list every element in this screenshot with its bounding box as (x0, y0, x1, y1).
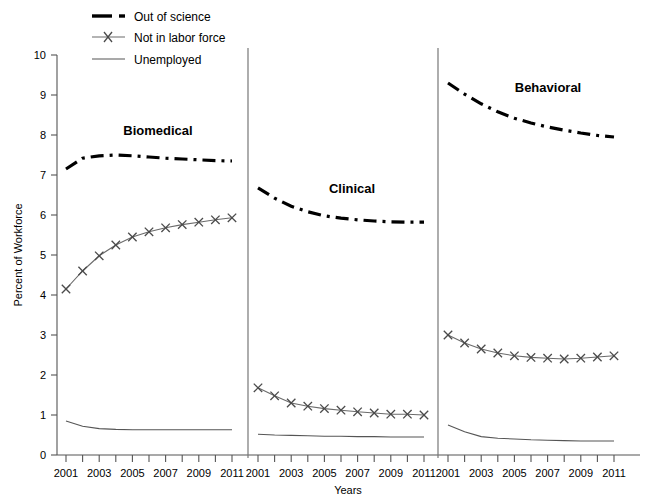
panel-title-biomedical: Biomedical (123, 123, 192, 138)
y-tick-label: 4 (40, 289, 46, 301)
y-tick-label: 5 (40, 249, 46, 261)
x-tick-label: 2009 (187, 467, 211, 479)
x-tick-label: 2001 (246, 467, 270, 479)
x-tick-label: 2007 (345, 467, 369, 479)
x-tick-label: 2005 (120, 467, 144, 479)
x-tick-label: 2005 (502, 467, 526, 479)
legend-label-not-in-labor-force: Not in labor force (134, 31, 226, 45)
x-tick-label: 2005 (312, 467, 336, 479)
legend-label-out-of-science: Out of science (134, 10, 211, 24)
x-tick-label: 2001 (436, 467, 460, 479)
x-tick-label: 2003 (279, 467, 303, 479)
series-line-biomedical-unemployed (66, 421, 232, 430)
panel-behavioral (444, 83, 618, 441)
series-line-behavioral-unemployed (448, 425, 614, 441)
y-tick-label: 7 (40, 169, 46, 181)
x-tick-label: 2011 (220, 467, 244, 479)
y-tick-label: 1 (40, 409, 46, 421)
x-axis-title: Years (334, 484, 362, 496)
panel-biomedical (62, 155, 236, 430)
series-markers-behavioral (444, 331, 618, 363)
x-tick-label: 2009 (569, 467, 593, 479)
series-line-behavioral-not-in-labor-force (448, 335, 614, 359)
x-axis: 2001200320052007200920112001200320052007… (54, 455, 640, 496)
y-tick-label: 6 (40, 209, 46, 221)
x-tick-label: 2007 (153, 467, 177, 479)
x-tick-label: 2001 (54, 467, 78, 479)
x-tick-label: 2003 (87, 467, 111, 479)
chart-figure: Out of science Not in labor force Unempl… (0, 0, 647, 504)
series-line-clinical-unemployed (258, 434, 424, 437)
y-tick-label: 3 (40, 329, 46, 341)
x-tick-label: 2011 (412, 467, 436, 479)
y-tick-label: 2 (40, 369, 46, 381)
chart-legend: Out of science Not in labor force Unempl… (92, 10, 226, 67)
x-tick-label: 2003 (469, 467, 493, 479)
x-tick-label: 2009 (379, 467, 403, 479)
multi-panel-line-chart: Out of science Not in labor force Unempl… (0, 0, 647, 504)
panel-title-clinical: Clinical (329, 181, 375, 196)
y-axis-title: Percent of Workforce (12, 203, 24, 306)
series-line-biomedical-out-of-science (66, 155, 232, 169)
legend-label-unemployed: Unemployed (134, 53, 201, 67)
panel-title-behavioral: Behavioral (515, 80, 581, 95)
y-tick-label: 10 (34, 49, 46, 61)
y-tick-label: 8 (40, 129, 46, 141)
x-tick-label: 2011 (602, 467, 626, 479)
y-tick-label: 0 (40, 449, 46, 461)
series-line-biomedical-not-in-labor-force (66, 218, 232, 289)
series-markers-biomedical (62, 214, 236, 294)
panel-clinical (254, 188, 428, 437)
x-tick-label: 2007 (535, 467, 559, 479)
y-tick-label: 9 (40, 89, 46, 101)
y-axis: 012345678910 Percent of Workforce (12, 49, 57, 461)
